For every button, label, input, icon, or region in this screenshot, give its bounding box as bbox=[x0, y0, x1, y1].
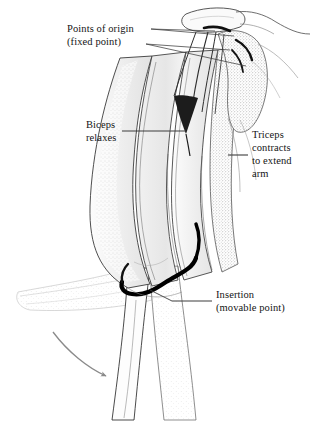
anatomy-illustration bbox=[0, 0, 315, 422]
label-biceps-relaxes: Biceps relaxes bbox=[86, 118, 116, 144]
arm-muscle-diagram: Points of origin (fixed point) Biceps re… bbox=[0, 0, 315, 422]
label-points-of-origin-line1: Points of origin bbox=[67, 22, 134, 35]
label-insertion-line1: Insertion bbox=[216, 288, 285, 301]
label-insertion-line2: (movable point) bbox=[216, 301, 285, 314]
label-triceps-line3: to extend bbox=[252, 154, 292, 167]
clavicle-group bbox=[182, 8, 310, 34]
label-biceps-line1: Biceps bbox=[86, 118, 116, 131]
label-points-of-origin-line2: (fixed point) bbox=[67, 35, 134, 48]
label-biceps-line2: relaxes bbox=[86, 131, 116, 144]
label-triceps-contracts: Triceps contracts to extend arm bbox=[252, 128, 292, 180]
label-triceps-line1: Triceps bbox=[252, 128, 292, 141]
label-triceps-line4: arm bbox=[252, 167, 292, 180]
label-points-of-origin: Points of origin (fixed point) bbox=[67, 22, 134, 48]
label-triceps-line2: contracts bbox=[252, 141, 292, 154]
label-insertion: Insertion (movable point) bbox=[216, 288, 285, 314]
upper-arm-group bbox=[90, 46, 246, 288]
motion-arrow bbox=[53, 332, 106, 376]
